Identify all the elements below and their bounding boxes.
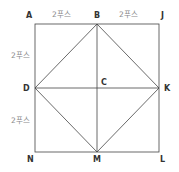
dimension-top-left: 2푸스 [52, 10, 71, 19]
label-l: L [160, 155, 165, 164]
square-diamond-diagram: A B J D C K N M L 2푸스 2푸스 2푸스 2푸스 [0, 0, 179, 172]
label-c: C [101, 78, 107, 87]
label-b: B [94, 11, 100, 20]
dimension-left-upper: 2푸스 [11, 51, 30, 60]
label-j: J [160, 11, 164, 20]
label-d: D [23, 84, 30, 93]
label-a: A [26, 11, 33, 20]
dimension-left-lower: 2푸스 [11, 116, 30, 125]
label-n: N [27, 155, 34, 164]
label-m: M [93, 155, 101, 164]
label-k: K [164, 84, 171, 93]
dimension-top-right: 2푸스 [119, 10, 138, 19]
